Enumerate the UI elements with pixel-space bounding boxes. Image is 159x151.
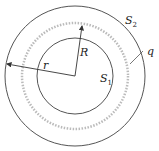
label-R: R	[79, 46, 88, 59]
label-r: r	[43, 59, 49, 72]
concentric-surfaces-diagram: S2 S1 q R r	[0, 0, 159, 151]
label-s1: S1	[100, 72, 112, 87]
label-s2: S2	[125, 14, 137, 29]
radius-r-arrow	[7, 64, 75, 76]
q-leader-line	[130, 51, 143, 64]
label-q: q	[147, 45, 154, 58]
